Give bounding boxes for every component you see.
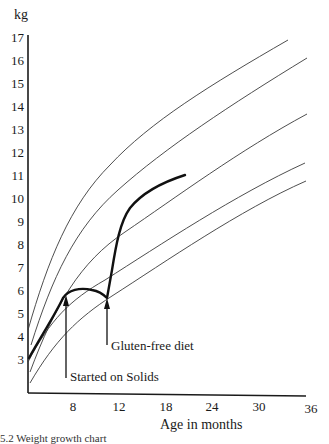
x-tick-8: 8	[70, 400, 77, 413]
gluten-free-diet-label: Gluten-free diet	[111, 339, 194, 352]
x-axis-line	[28, 393, 306, 396]
x-tick-18: 18	[160, 400, 173, 413]
centile-curve-3	[30, 114, 307, 372]
x-tick-24: 24	[206, 400, 219, 413]
started-on-solids-label: Started on Solids	[70, 370, 159, 383]
x-tick-30: 30	[253, 400, 266, 413]
figure-caption: 5.2 Weight growth chart	[0, 432, 106, 444]
solids-arrow	[63, 295, 69, 378]
x-tick-12: 12	[113, 400, 126, 413]
x-tick-36: 36	[305, 402, 318, 415]
gluten-arrow	[104, 298, 110, 345]
centile-curve-4	[28, 163, 305, 362]
x-axis-title: Age in months	[160, 418, 242, 432]
centile-curves	[28, 40, 307, 383]
